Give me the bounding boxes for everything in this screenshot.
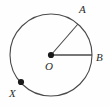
geometry-figure: A B O X (0, 0, 110, 107)
radius-line-oa (51, 24, 78, 55)
label-point-x: X (8, 87, 17, 99)
label-point-b: B (96, 51, 103, 63)
circle-diagram-canvas: A B O X (0, 0, 110, 107)
label-point-a: A (78, 3, 86, 15)
center-point-dot (48, 52, 54, 58)
point-x-dot (18, 79, 24, 85)
label-point-o: O (45, 60, 53, 72)
